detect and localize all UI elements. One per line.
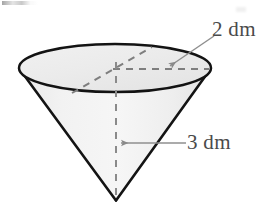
radius-dimension-label: 2 dm [212,17,256,42]
height-dimension-label: 3 dm [187,130,231,155]
scan-artifact-top-right [236,7,246,12]
scan-artifact-top-left [2,1,38,5]
cone-figure: 2 dm 3 dm [0,0,276,212]
